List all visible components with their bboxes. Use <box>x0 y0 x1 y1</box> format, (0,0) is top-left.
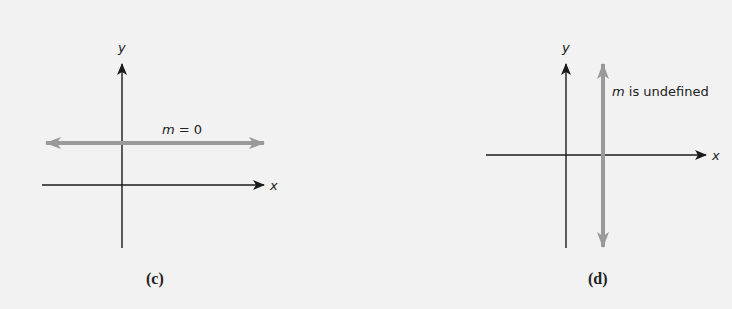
caption-c: (c) <box>146 270 164 288</box>
x-axis-label: x <box>711 148 720 163</box>
y-axis-label: y <box>117 40 126 55</box>
slope-diagrams: y x m = 0 (c) y x m is undefined (d) <box>0 0 732 309</box>
slope-label: m = 0 <box>162 122 202 137</box>
x-axis-label: x <box>269 178 278 193</box>
slope-label: m is undefined <box>612 84 709 99</box>
panel-c: y x m = 0 (c) <box>42 40 278 288</box>
caption-d: (d) <box>588 270 608 288</box>
y-axis-label: y <box>561 40 570 55</box>
panel-d: y x m is undefined (d) <box>486 40 720 288</box>
